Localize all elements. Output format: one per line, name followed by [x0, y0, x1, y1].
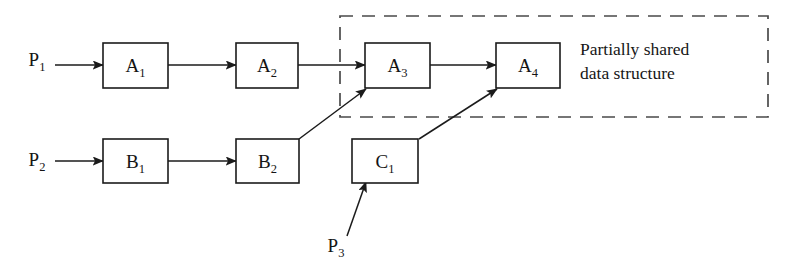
- node-a1[interactable]: A1: [103, 43, 168, 88]
- node-a2[interactable]: A2: [236, 43, 298, 88]
- process-label-p3: P3: [328, 235, 345, 260]
- diagram-canvas: A1A2A3A4B1B2C1 P1P2P3 Partially shared d…: [0, 0, 797, 266]
- node-b1[interactable]: B1: [103, 139, 168, 183]
- node-a3[interactable]: A3: [365, 43, 430, 88]
- edge-arrow-p3-c1: [347, 182, 366, 236]
- nodes-layer: A1A2A3A4B1B2C1: [103, 43, 560, 183]
- process-label-p2: P2: [29, 149, 46, 174]
- group-caption: Partially shared data structure: [580, 39, 690, 83]
- group-caption-line-2: data structure: [580, 63, 675, 83]
- group-caption-line-1: Partially shared: [580, 39, 690, 59]
- process-label-p1: P1: [29, 49, 46, 74]
- pipeline-diagram: A1A2A3A4B1B2C1 P1P2P3 Partially shared d…: [0, 0, 797, 266]
- node-c1[interactable]: C1: [352, 139, 418, 183]
- node-a4[interactable]: A4: [496, 43, 560, 88]
- edge-arrow-c1-a4: [419, 89, 497, 139]
- node-b2[interactable]: B2: [236, 139, 299, 183]
- edge-arrow-b2-a3: [299, 89, 366, 139]
